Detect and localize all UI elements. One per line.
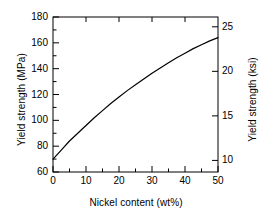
y-tick-label: 120 (18, 89, 48, 100)
y-axis-right-title: Yield strength (ksi) (247, 35, 258, 165)
y2-tick-label: 25 (222, 21, 246, 32)
plot-frame (53, 17, 218, 172)
x-tick-label: 20 (106, 175, 132, 186)
x-tick-label: 40 (172, 175, 198, 186)
x-tick-label: 50 (205, 175, 231, 186)
chart-figure: Yield strength (MPa) Yield strength (ksi… (0, 0, 273, 213)
x-tick-label: 30 (139, 175, 165, 186)
x-tick-label: 10 (73, 175, 99, 186)
x-tick-label: 0 (40, 175, 66, 186)
y-tick-label: 140 (18, 63, 48, 74)
y-tick-label: 100 (18, 114, 48, 125)
y2-tick-label: 10 (222, 154, 246, 165)
y-tick-label: 180 (18, 11, 48, 22)
y2-tick-label: 15 (222, 110, 246, 121)
x-axis-title: Nickel content (wt%) (53, 197, 219, 208)
y-tick-label: 80 (18, 140, 48, 151)
y2-tick-label: 20 (222, 65, 246, 76)
y-tick-label: 160 (18, 37, 48, 48)
